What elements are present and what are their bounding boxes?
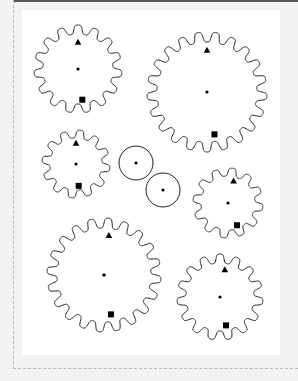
gear-diagram: [22, 10, 280, 355]
gear-middle-right: [193, 168, 263, 238]
gear-top-left-square-marker-1: [79, 97, 85, 103]
top-rule: [14, 0, 298, 2]
disc-center-upper-hub-dot: [134, 161, 137, 164]
drawing-panel: [22, 10, 280, 355]
gear-top-right-square-marker-1: [211, 131, 217, 137]
gear-bottom-right-square-marker-1: [223, 322, 229, 328]
screenshot-root: [0, 0, 298, 381]
gear-middle-left-hub-dot: [74, 162, 77, 165]
gear-middle-right-square-marker-1: [234, 222, 240, 228]
gear-top-left-hub-dot: [76, 67, 79, 70]
gear-middle-left-square-marker-1: [76, 183, 82, 189]
disc-center-upper: [119, 146, 153, 180]
gear-middle-left: [42, 130, 110, 198]
gear-top-right: [147, 33, 267, 152]
gear-top-right-hub-dot: [205, 90, 208, 93]
disc-center-lower-hub-dot: [161, 188, 164, 191]
gear-bottom-left-hub-dot: [102, 273, 106, 277]
crop-guide-bottom: [13, 368, 298, 369]
gear-middle-right-hub-dot: [226, 201, 229, 204]
crop-guide-left: [13, 0, 14, 369]
gear-bottom-right-hub-dot: [218, 295, 221, 298]
gear-bottom-left-square-marker-1: [108, 311, 114, 317]
gear-bottom-right: [177, 254, 263, 339]
gear-bottom-left: [47, 218, 161, 332]
gear-top-left: [34, 25, 122, 112]
disc-center-lower: [146, 173, 180, 207]
